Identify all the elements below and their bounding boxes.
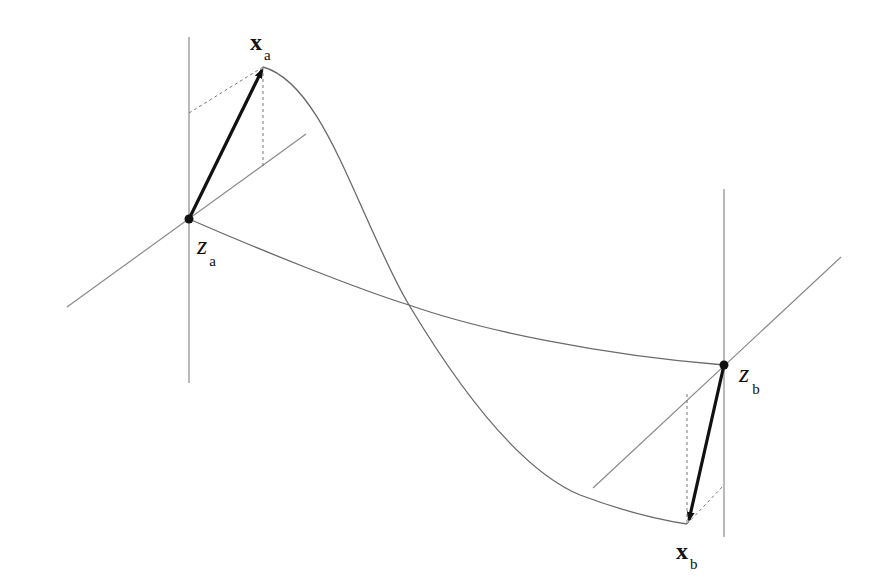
label-xb-sub: b (690, 556, 698, 572)
label-zb-main: z (739, 359, 749, 388)
label-za-sub: a (209, 253, 216, 269)
curve-xa-to-xb (263, 67, 687, 524)
label-zb-sub: b (752, 381, 760, 397)
point-za (185, 215, 194, 224)
label-xb: xb (676, 539, 696, 563)
label-xa-main: x (250, 29, 262, 55)
vector-xb-arrow (689, 365, 724, 520)
frame-b-diagonal-axis (593, 257, 841, 488)
frame-a (67, 37, 306, 383)
diagram-canvas: xa za zb xb (0, 0, 885, 584)
label-za: za (197, 233, 214, 259)
label-xa-sub: a (264, 47, 271, 63)
label-za-main: z (197, 231, 207, 260)
label-zb: zb (739, 361, 757, 387)
curve-za-to-zb (189, 219, 724, 365)
label-xb-main: x (676, 538, 688, 564)
diagram-svg (0, 0, 885, 584)
label-xa: xa (250, 30, 269, 54)
point-zb (720, 361, 729, 370)
frame-b (593, 189, 841, 537)
vector-xa-arrow (189, 70, 262, 219)
